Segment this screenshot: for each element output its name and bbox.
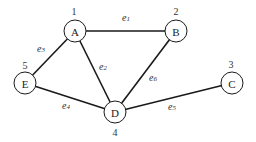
edge-label-e6: e6 [149, 72, 157, 84]
node-label-c: C [228, 78, 235, 90]
node-c: C3 [221, 59, 243, 95]
vertex-number-d: 4 [113, 127, 118, 138]
edge-label-e1: e1 [122, 12, 130, 24]
vertex-number-c: 3 [229, 59, 234, 70]
nodes-layer: A1B2C3D4E5 [14, 6, 243, 138]
node-d: D4 [104, 101, 126, 138]
edge-label-e4: e4 [62, 100, 70, 112]
node-label-e: E [22, 78, 29, 90]
node-label-a: A [71, 26, 79, 38]
vertex-number-a: 1 [72, 6, 77, 17]
vertex-number-b: 2 [174, 6, 179, 17]
edge-e4 [25, 83, 115, 112]
node-a: A1 [64, 6, 86, 43]
edge-label-e3: e3 [37, 43, 45, 55]
edge-e2 [75, 31, 115, 112]
edge-label-e5: e5 [168, 101, 176, 113]
node-b: B2 [165, 6, 187, 43]
node-label-d: D [111, 107, 119, 119]
vertex-number-e: 5 [23, 60, 28, 71]
graph-diagram: A1B2C3D4E5 e1e2e3e4e5e6 [0, 0, 256, 142]
edges-layer [25, 31, 232, 112]
node-label-b: B [172, 26, 179, 38]
edge-label-e2: e2 [99, 61, 107, 73]
node-e: E5 [14, 60, 36, 95]
